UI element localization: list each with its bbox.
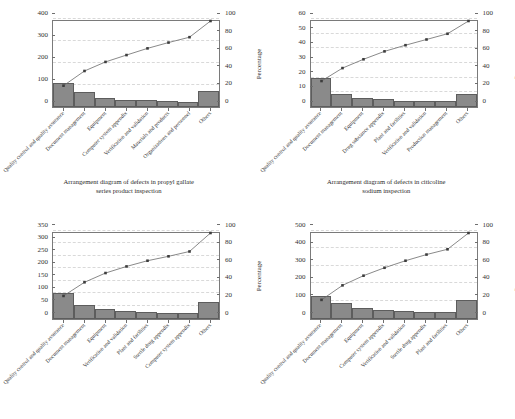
x-axis-tick-label: Production management	[405, 110, 448, 153]
y-axis-tick-label: 300	[295, 256, 310, 263]
y-axis-tick-label: 200	[295, 274, 310, 281]
x-axis-tick-mark	[404, 108, 405, 111]
y2-axis-tick-mark	[217, 224, 220, 225]
y2-axis-tick-label: 100	[478, 10, 494, 17]
y-axis-tick-label: 100	[38, 284, 53, 291]
gridline	[311, 230, 477, 231]
y-axis-tick-label: 0	[45, 309, 53, 316]
x-axis-tick-label: Document management	[44, 110, 86, 152]
y-axis-tick-mark	[310, 101, 313, 102]
x-axis-tick-mark	[210, 108, 211, 111]
x-axis-tick-mark	[446, 320, 447, 323]
y2-axis-tick-label: 20	[220, 80, 232, 87]
y-axis-tick-label: 350	[38, 221, 53, 228]
y-axis-tick-mark	[310, 277, 313, 278]
y2-axis-tick-label: 100	[220, 10, 236, 17]
y2-axis-tick-label: 20	[220, 291, 232, 298]
y-axis-tick-mark	[52, 312, 55, 313]
y-axis-tick-label: 200	[38, 54, 53, 61]
x-axis-tick-label: Others	[197, 322, 212, 337]
caption-line-2: sodium inspection	[258, 187, 515, 196]
y-axis-tick-mark	[52, 101, 55, 102]
x-axis-tick-label: Sterile drug appendix	[389, 322, 427, 360]
y-axis-tick-label: 100	[38, 76, 53, 83]
y-axis-tick-label: 100	[295, 291, 310, 298]
y2-axis-tick-label: 60	[478, 45, 490, 52]
x-axis-tick-label: Equipment	[85, 322, 107, 344]
y2-axis-tick-mark	[217, 48, 220, 49]
y2-axis-tick-mark	[475, 48, 478, 49]
y-axis-tick-mark	[310, 242, 313, 243]
x-axis-tick-mark	[168, 320, 169, 323]
x-axis-tick-mark	[383, 320, 384, 323]
x-axis-tick-mark	[189, 320, 190, 323]
y-axis-tick-label: 250	[38, 246, 53, 253]
x-axis-tick-mark	[168, 108, 169, 111]
y2-axis-tick-label: 80	[478, 239, 490, 246]
y-axis-tick-mark	[310, 224, 313, 225]
y-axis-tick-label: 0	[302, 309, 310, 316]
y-axis-tick-label: 10	[299, 83, 310, 90]
y-axis-tick-label: 40	[299, 39, 310, 46]
x-axis-tick-label: Document management	[44, 322, 86, 364]
plot-frame	[52, 232, 220, 320]
y-axis-tick-mark	[310, 86, 313, 87]
y2-axis-tick-mark	[217, 312, 220, 313]
cumulative-line-series	[53, 233, 219, 319]
y2-axis-tick-label: 40	[478, 274, 490, 281]
y2-axis-tick-mark	[217, 242, 220, 243]
x-axis-tick-mark	[84, 108, 85, 111]
y2-axis-tick-mark	[217, 65, 220, 66]
y2-axis-tick-mark	[475, 30, 478, 31]
y-axis-tick-mark	[310, 57, 313, 58]
y2-axis-tick-mark	[475, 259, 478, 260]
y-axis-tick-label: 60	[299, 10, 310, 17]
plot-area-1: 0102030405060020406080100PercentageQuali…	[310, 20, 478, 108]
y2-axis-tick-label: 0	[478, 98, 487, 105]
x-axis-tick-mark	[320, 320, 321, 323]
y2-axis-tick-mark	[475, 277, 478, 278]
y2-axis-tick-label: 40	[220, 62, 232, 69]
y2-axis-tick-label: 0	[220, 98, 229, 105]
y-axis-tick-label: 50	[41, 296, 52, 303]
y-axis-tick-mark	[52, 79, 55, 80]
y-axis-tick-mark	[52, 299, 55, 300]
y-axis-tick-mark	[310, 259, 313, 260]
y2-axis-tick-label: 0	[220, 309, 229, 316]
plot-frame	[310, 20, 478, 108]
chart-panel-0: 0100200300400020406080100PercentageQuali…	[0, 0, 258, 210]
y2-axis-tick-label: 40	[478, 62, 490, 69]
y2-axis-tick-mark	[217, 277, 220, 278]
y2-axis-tick-label: 80	[220, 239, 232, 246]
y-axis-tick-label: 0	[45, 98, 53, 105]
x-axis-tick-mark	[362, 320, 363, 323]
caption-line-1: Arrangement diagram of defects in propyl…	[0, 178, 258, 187]
x-axis-tick-mark	[341, 320, 342, 323]
y2-axis-tick-mark	[475, 294, 478, 295]
y-axis-tick-label: 50	[299, 24, 310, 31]
y2-axis-tick-label: 20	[478, 291, 490, 298]
plot-frame	[52, 20, 220, 108]
y-axis-tick-mark	[310, 27, 313, 28]
y-axis-tick-label: 20	[299, 68, 310, 75]
plot-area-2: 050100150200250300350020406080100Percent…	[52, 232, 220, 320]
chart-caption: Arrangement diagram of defects in citico…	[258, 178, 515, 195]
x-axis-tick-label: Others	[197, 110, 212, 125]
y-axis-tick-mark	[52, 274, 55, 275]
y2-axis-tick-label: 40	[220, 274, 232, 281]
x-axis-tick-label: Document management	[301, 322, 343, 364]
y2-axis-tick-mark	[475, 312, 478, 313]
y-axis-tick-mark	[52, 13, 55, 14]
y2-axis-tick-mark	[217, 83, 220, 84]
x-axis-tick-label: Others	[454, 110, 469, 125]
y-axis-tick-label: 500	[295, 221, 310, 228]
y2-axis-tick-label: 100	[220, 221, 236, 228]
plot-frame	[310, 232, 478, 320]
chart-panel-3: 0100200300400500020406080100PercentageQu…	[258, 210, 515, 419]
x-axis-tick-mark	[126, 320, 127, 323]
x-axis-tick-mark	[425, 108, 426, 111]
y-axis-tick-label: 300	[38, 234, 53, 241]
x-axis-tick-label: Materials and products	[129, 110, 169, 150]
y2-axis-tick-mark	[475, 13, 478, 14]
x-axis-tick-label: Others	[454, 322, 469, 337]
